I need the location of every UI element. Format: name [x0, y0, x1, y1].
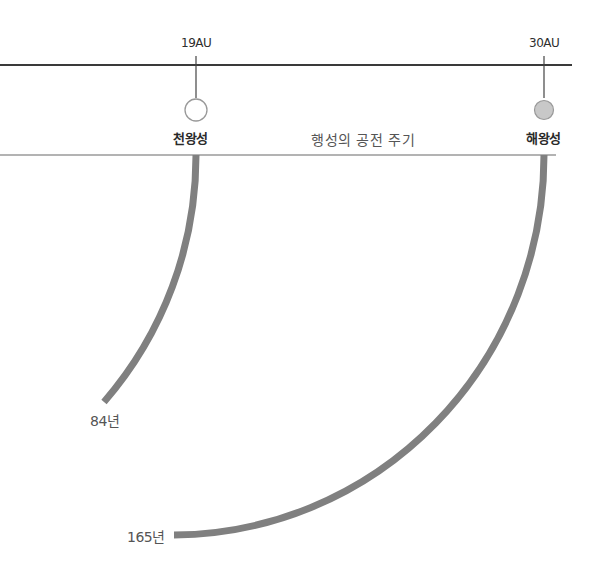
- diagram-title: 행성의 공전 주기: [311, 129, 415, 149]
- neptune-name-label: 해왕성: [526, 128, 561, 147]
- uranus-distance-label: 19AU: [181, 36, 211, 50]
- neptune-distance-label: 30AU: [529, 36, 559, 50]
- uranus-orbit-arc: [104, 155, 196, 402]
- neptune-icon: [535, 101, 554, 120]
- uranus-name-label: 천왕성: [173, 128, 208, 147]
- orbit-diagram: [0, 0, 601, 574]
- uranus-period-label: 84년: [90, 410, 119, 430]
- neptune-period-label: 165년: [127, 526, 165, 546]
- neptune-orbit-arc: [174, 155, 544, 535]
- uranus-icon: [185, 99, 207, 121]
